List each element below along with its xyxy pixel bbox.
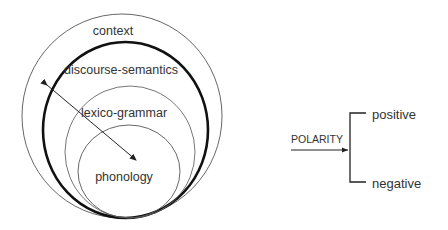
polarity-system-label: POLARITY bbox=[291, 134, 343, 145]
phonology-label: phonology bbox=[95, 171, 153, 184]
context-label: context bbox=[93, 25, 133, 38]
stratification-arrow bbox=[47, 85, 136, 160]
system-bracket bbox=[350, 113, 366, 182]
option-negative: negative bbox=[372, 177, 421, 190]
lexico-grammar-label: lexico-grammar bbox=[81, 107, 167, 120]
discourse-semantics-label: discourse-semantics bbox=[64, 64, 178, 77]
option-positive: positive bbox=[372, 108, 416, 121]
